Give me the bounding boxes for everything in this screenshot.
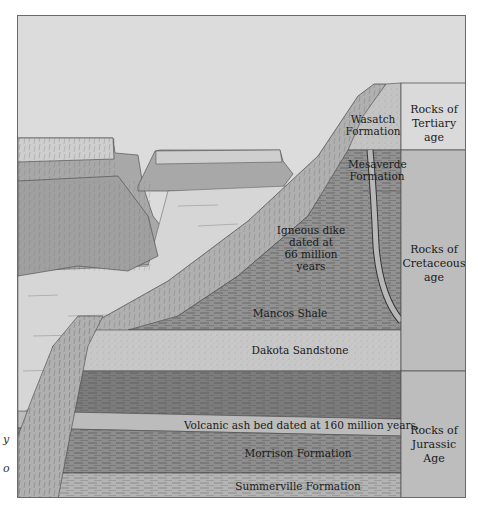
morrison-formation-label: Morrison Formation <box>238 447 358 459</box>
igneous-dike-annotation: Igneous dike dated at 66 million years <box>276 224 346 272</box>
volcanic-ash-bed-label: Volcanic ash bed dated at 160 million ye… <box>184 419 394 431</box>
wasatch-formation-label: Wasatch Formation <box>345 113 401 137</box>
label-line: Igneous dike <box>276 224 346 236</box>
label-line: Tertiary age <box>401 117 466 145</box>
edge-text-fragment: y <box>3 433 9 446</box>
label-line: Rocks of <box>401 103 466 117</box>
cretaceous-age-label: Rocks of Cretaceous age <box>401 243 466 285</box>
dakota-sandstone-label: Dakota Sandstone <box>240 344 360 356</box>
label-line: Rocks of <box>401 243 466 257</box>
label-line: years <box>276 260 346 272</box>
label-line: dated at <box>276 236 346 248</box>
label-line: age <box>401 271 466 285</box>
label-line: Jurassic Age <box>401 438 466 466</box>
jurassic-age-label: Rocks of Jurassic Age <box>401 424 466 466</box>
summerville-formation-label: Summerville Formation <box>228 480 368 492</box>
label-line: Formation <box>345 125 401 137</box>
label-line: Rocks of <box>401 424 466 438</box>
label-line: 66 million <box>276 248 346 260</box>
label-line: Formation <box>348 170 406 182</box>
edge-text-fragment: o <box>3 462 10 475</box>
geologic-cross-section-figure: Wasatch Formation Mesaverde Formation Ig… <box>17 15 466 498</box>
label-line: Wasatch <box>345 113 401 125</box>
label-line: Mesaverde <box>348 158 406 170</box>
mesaverde-formation-label: Mesaverde Formation <box>348 158 406 182</box>
mancos-shale-label: Mancos Shale <box>240 307 340 319</box>
tertiary-age-label: Rocks of Tertiary age <box>401 103 466 145</box>
label-line: Cretaceous <box>401 257 466 271</box>
